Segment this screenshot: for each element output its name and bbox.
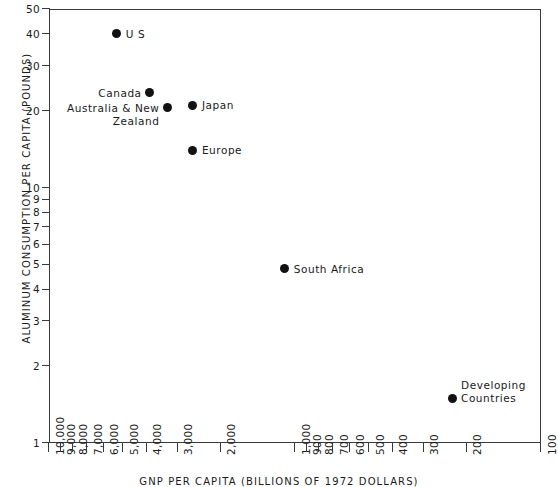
data-point (448, 394, 457, 403)
x-tick-label: 6,000 (108, 423, 120, 455)
y-tick-label: 50 (0, 3, 40, 15)
x-tick-label: 400 (397, 434, 409, 455)
y-tick-mark (42, 320, 50, 321)
x-tick-label: 8,000 (77, 423, 89, 455)
data-point-label: Europe (202, 144, 242, 157)
y-tick-mark (42, 33, 50, 34)
data-point-label: Australia & New Zealand (67, 102, 159, 128)
x-tick-mark (177, 443, 178, 452)
x-tick-label: 900 (311, 434, 323, 455)
y-tick-mark (42, 264, 50, 265)
y-tick-mark (42, 110, 50, 111)
data-point-label: Canada (98, 87, 141, 100)
x-tick-mark (540, 443, 541, 452)
x-tick-label: 2,000 (225, 423, 237, 455)
x-tick-mark (294, 443, 295, 452)
x-tick-label: 200 (471, 434, 483, 455)
y-tick-mark (42, 244, 50, 245)
x-tick-mark (349, 443, 350, 452)
x-tick-mark (86, 443, 87, 452)
x-tick-mark (103, 443, 104, 452)
x-tick-mark (146, 443, 147, 452)
x-tick-label: 5,000 (128, 423, 140, 455)
y-tick-mark (42, 212, 50, 213)
x-tick-label: 4,000 (151, 423, 163, 455)
x-tick-mark (48, 443, 49, 452)
x-axis-title: GNP PER CAPITA (BILLIONS OF 1972 DOLLARS… (0, 476, 558, 487)
x-tick-label: 9,000 (65, 423, 77, 455)
x-tick-mark (60, 443, 61, 452)
x-tick-mark (220, 443, 221, 452)
x-tick-mark (318, 443, 319, 452)
y-tick-mark (42, 365, 50, 366)
x-tick-label: 700 (338, 434, 350, 455)
y-tick-label: 40 (0, 28, 40, 40)
y-tick-mark (42, 199, 50, 200)
x-tick-mark (332, 443, 333, 452)
data-point-label: South Africa (294, 263, 364, 276)
x-tick-label: 3,000 (182, 423, 194, 455)
x-tick-label: 600 (354, 434, 366, 455)
y-tick-mark (42, 187, 50, 188)
data-point-label: Developing Countries (461, 379, 526, 405)
x-tick-mark (368, 443, 369, 452)
y-tick-mark (42, 289, 50, 290)
x-tick-mark (306, 443, 307, 452)
y-tick-label: 2 (0, 360, 40, 372)
data-point-label: Japan (202, 99, 234, 112)
x-tick-label: 800 (323, 434, 335, 455)
y-tick-mark (42, 226, 50, 227)
x-tick-mark (392, 443, 393, 452)
scatter-chart: 1234567891020304050 10,0009,0008,0007,00… (0, 0, 558, 487)
y-axis-title: ALUMINUM CONSUMPTION PER CAPITA (POUNDS) (21, 84, 32, 344)
x-tick-label: 300 (428, 434, 440, 455)
x-tick-mark (72, 443, 73, 452)
y-tick-mark (42, 8, 50, 9)
y-tick-label: 1 (0, 437, 40, 449)
x-tick-label: 500 (374, 434, 386, 455)
x-tick-mark (423, 443, 424, 452)
plot-frame (49, 9, 541, 443)
x-tick-mark (466, 443, 467, 452)
x-tick-label: 100 (546, 434, 558, 455)
data-point-label: U S (126, 28, 145, 41)
x-tick-label: 7,000 (92, 423, 104, 455)
y-tick-mark (42, 65, 50, 66)
x-tick-mark (122, 443, 123, 452)
